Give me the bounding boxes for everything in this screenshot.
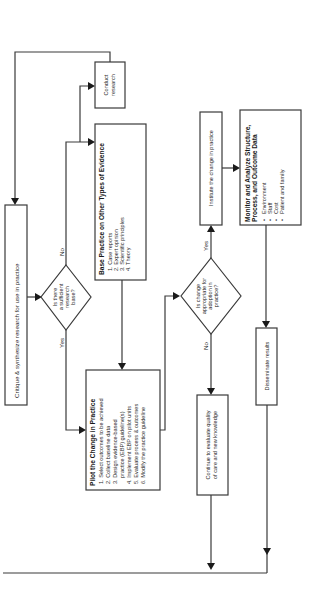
svg-text:4. Implement EBP on pilot unit: 4. Implement EBP on pilot units [126,406,132,484]
svg-text:6. Modify the practice guideli: 6. Modify the practice guideline [140,407,146,484]
bullet-icon: • [279,219,285,221]
svg-text:Continue to evaluate quality: Continue to evaluate quality [205,410,211,479]
svg-text:Conduct: Conduct [103,74,109,95]
critique-box: Critique & synthesize research for use i… [5,205,27,405]
arrow-up-icon [207,225,215,232]
no-branch-connector [66,142,88,265]
svg-text:4. Theory: 4. Theory [125,247,131,271]
decision-adoption-diamond: Is change appropriate for adoption in pr… [181,241,241,350]
disseminate-box: Disseminate results [256,328,277,405]
svg-text:5. Evaluate process & outcomes: 5. Evaluate process & outcomes [133,404,139,484]
arrow-right-icon [88,138,95,146]
svg-text:Patient and family: Patient and family [279,169,285,214]
svg-text:research: research [110,74,116,96]
arrow-right-icon [88,82,95,90]
base-practice-box: Base Practice on Other Types of Evidence… [95,124,146,280]
flowchart: Critique & synthesize research for use i… [0,0,316,606]
arrow-down-icon [118,363,126,370]
arrow-right-icon [233,164,240,172]
conduct-research-box: Conduct research [95,62,125,108]
continue-evaluate-box: Continue to evaluate quality of care and… [197,395,228,495]
pilot-box: Pilot the Change in Practice 1. Select o… [86,370,160,490]
arrow-down-icon [262,321,270,328]
svg-text:Institute the change in practi: Institute the change in practice [208,130,214,206]
pilot-title: Pilot the Change in Practice [89,398,97,486]
no-label: No [202,341,209,349]
svg-text:1. Select outcomes to be achie: 1. Select outcomes to be achieved [98,398,104,484]
institute-box: Institute the change in practice [200,112,222,225]
yes-label: Yes [202,241,209,251]
svg-text:3. Design evidence-based: 3. Design evidence-based [112,419,118,484]
conduct-research-connector [80,86,88,142]
svg-text:2. Collect baseline data: 2. Collect baseline data [105,425,111,484]
monitor-box: Monitor and Analyze Structure, Process, … [240,110,301,225]
yes-branch-connector [66,330,79,430]
svg-text:practice (EBP) guideline(s): practice (EBP) guideline(s) [119,411,125,478]
critique-label: Critique & synthesize research for use i… [13,263,20,398]
yes-label: Yes [58,338,65,348]
arrow-down-icon [207,388,215,395]
pilot-to-decision-connector [160,296,173,430]
svg-text:practice?: practice? [213,285,219,308]
base-practice-title: Base Practice on Other Types of Evidence [98,143,106,275]
svg-text:Process, and Outcome Data: Process, and Outcome Data [251,134,259,222]
svg-text:Disseminate results: Disseminate results [264,341,270,390]
no-label: No [58,247,65,255]
arrow-down-icon [207,563,215,570]
svg-text:base?: base? [70,289,76,304]
arrow-right-icon [173,292,180,300]
arrow-down-icon [11,198,19,205]
svg-text:of care and new knowledge: of care and new knowledge [212,411,218,479]
arrow-right-icon [79,426,86,434]
arrow-down-icon [263,548,271,555]
